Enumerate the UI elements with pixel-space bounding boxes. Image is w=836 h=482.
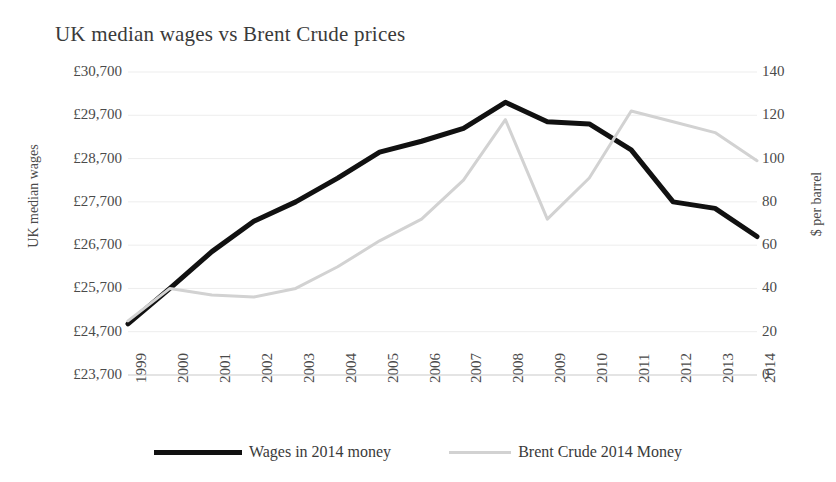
chart-legend: Wages in 2014 moneyBrent Crude 2014 Mone…	[0, 443, 836, 461]
legend-label: Wages in 2014 money	[249, 443, 391, 461]
chart-container: UK median wages vs Brent Crude prices UK…	[0, 0, 836, 482]
legend-item-2[interactable]: Brent Crude 2014 Money	[449, 443, 682, 461]
legend-item-1[interactable]: Wages in 2014 money	[154, 443, 391, 461]
plot-area	[0, 0, 836, 482]
series-line-2	[128, 111, 757, 321]
legend-label: Brent Crude 2014 Money	[518, 443, 682, 461]
legend-line-swatch-icon	[154, 450, 242, 455]
legend-line-swatch-icon	[449, 451, 511, 454]
series-line-1	[128, 102, 757, 324]
